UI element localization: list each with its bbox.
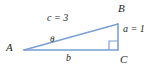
right-angle-marker: [109, 41, 118, 50]
opposite-side-label: a = 1: [123, 24, 145, 34]
vertex-label-a: A: [6, 42, 13, 53]
vertex-label-c: C: [120, 54, 127, 65]
hypotenuse-line: [24, 24, 118, 50]
adjacent-side-label: b: [66, 53, 71, 63]
vertex-label-b: B: [118, 3, 125, 14]
theta-angle-label: θ: [50, 35, 54, 44]
hypotenuse-label: c = 3: [47, 13, 68, 23]
right-triangle-diagram: A B C c = 3 a = 1 b θ: [0, 0, 149, 76]
